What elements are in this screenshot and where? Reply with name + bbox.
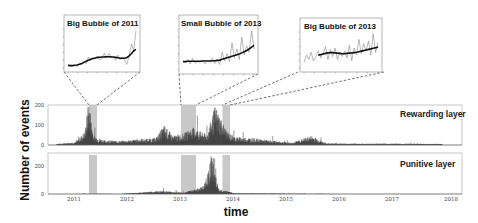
xtick-2011: 2011 <box>67 196 81 202</box>
highlight-2013-big-bottom <box>223 155 231 194</box>
y-axis-label: Number of events <box>18 99 32 201</box>
inset-title-2013-small: Small Bubble of 2013 <box>181 19 262 28</box>
ytick-0: 0 <box>41 142 44 148</box>
xtick-2012: 2012 <box>120 196 134 202</box>
highlight-2013-small-bottom <box>181 155 196 194</box>
ytick-bottom-0: 0 <box>41 191 44 197</box>
x-axis: 2011 2012 2013 2014 2015 2016 2017 2018 <box>67 196 458 202</box>
xtick-2015: 2015 <box>279 196 293 202</box>
punitive-panel: 200 0 Punitive layer <box>35 153 462 197</box>
highlight-2011-bottom <box>89 155 97 194</box>
inset-big-bubble-2011: Big Bubble of 2011 <box>63 15 141 74</box>
chart-canvas: 200 100 0 Rewarding layer 200 0 Punitive… <box>0 0 478 223</box>
zoom-connectors <box>64 72 384 105</box>
xtick-2014: 2014 <box>226 196 240 202</box>
inset-title-2013-big: Big Bubble of 2013 <box>304 22 377 31</box>
x-axis-label: time <box>224 205 249 219</box>
xtick-2013: 2013 <box>173 196 187 202</box>
ytick-bottom-200: 200 <box>35 163 44 169</box>
xtick-2018: 2018 <box>444 196 458 202</box>
rewarding-panel: 200 100 0 Rewarding layer <box>35 102 467 148</box>
inset-title-2011: Big Bubble of 2011 <box>67 19 139 28</box>
rewarding-layer-label: Rewarding layer <box>400 109 466 119</box>
ytick-200: 200 <box>35 102 44 108</box>
xtick-2016: 2016 <box>332 196 346 202</box>
xtick-2017: 2017 <box>385 196 399 202</box>
punitive-layer-label: Punitive layer <box>400 159 456 169</box>
ytick-100: 100 <box>35 122 44 128</box>
inset-small-bubble-2013: Small Bubble of 2013 <box>178 15 263 76</box>
inset-big-bubble-2013: Big Bubble of 2013 <box>299 18 383 74</box>
